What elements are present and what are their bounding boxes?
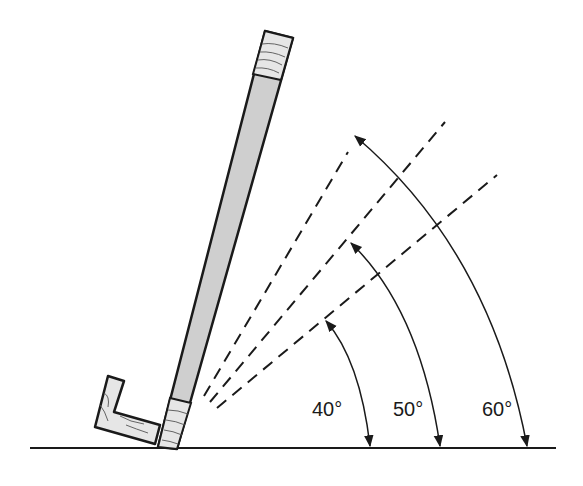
arc-40	[326, 321, 370, 446]
board-foot	[95, 376, 160, 444]
angle-label-40: 40°	[312, 398, 342, 420]
angle-label-60: 60°	[482, 398, 512, 420]
angle-label-50: 50°	[393, 398, 423, 420]
angle-diagram: 40° 50° 60°	[0, 0, 583, 486]
board	[158, 31, 293, 449]
guide-40	[217, 175, 497, 408]
